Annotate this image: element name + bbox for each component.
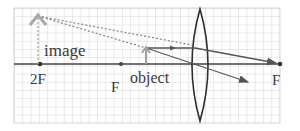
point-f-right — [278, 62, 283, 67]
label-f-left: F — [111, 79, 119, 95]
label-2f: 2F — [30, 71, 46, 87]
label-object: object — [130, 69, 170, 87]
label-f-right: F — [272, 72, 280, 88]
lens-ray-diagram: image object 2F F F — [0, 0, 300, 131]
label-image: image — [44, 41, 86, 60]
graph-paper-grid — [14, 8, 280, 123]
point-f-left — [119, 62, 123, 66]
